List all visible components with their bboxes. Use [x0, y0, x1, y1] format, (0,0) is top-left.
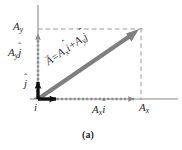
hat-accent-icon: ˆ — [102, 99, 105, 108]
label-ax-base: A — [139, 101, 146, 113]
label-ax-subscript: x — [146, 106, 150, 115]
label-ayj-base: A — [8, 46, 15, 58]
figure-caption: (a) — [82, 130, 94, 140]
label-ax-ihat-component: Axˆi — [92, 104, 106, 117]
label-ax-magnitude: Ax — [139, 102, 149, 115]
label-unit-vector-j: ˆj — [24, 78, 27, 89]
figure-canvas — [0, 0, 182, 150]
label-ay-jhat-component: Ayˆj — [8, 47, 22, 60]
hat-accent-icon: ˆ — [34, 97, 37, 106]
label-axi-base: A — [92, 103, 99, 115]
label-ay-magnitude: Ay — [13, 21, 23, 34]
label-ayj-unit-vector: ˆj — [18, 47, 21, 58]
label-axi-unit-vector: ˆi — [102, 104, 105, 115]
label-jhat-wrap: ˆj — [24, 78, 27, 89]
label-unit-vector-i: ˆi — [34, 102, 37, 113]
label-ay-subscript: y — [20, 25, 24, 34]
label-ay-base: A — [13, 20, 20, 32]
label-ihat-wrap: ˆi — [34, 102, 37, 113]
vector-components-figure: Ay Ayˆj ˆj ˆi Axˆi Ax →A=Axˆi+Ayˆj (a) — [0, 0, 182, 150]
hat-accent-icon: ˆ — [24, 73, 27, 82]
hat-accent-icon: ˆ — [18, 42, 21, 51]
